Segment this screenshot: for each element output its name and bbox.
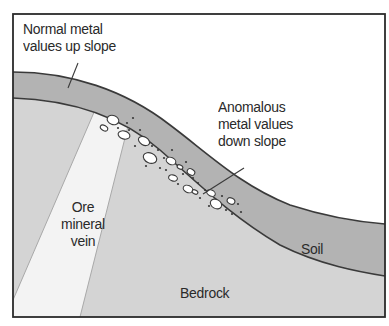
- label-normal-line2: values up slope: [23, 37, 116, 54]
- label-anomalous-line1: Anomalous: [218, 98, 293, 115]
- label-anomalous-metal: Anomalous metal values down slope: [218, 98, 293, 149]
- label-normal-metal: Normal metal values up slope: [23, 20, 116, 54]
- label-anomalous-line2: metal values: [218, 115, 293, 132]
- label-soil-text: Soil: [301, 240, 323, 257]
- label-ore-line1: Ore: [53, 198, 112, 215]
- label-ore-vein: Ore mineral vein: [53, 198, 112, 249]
- label-ore-line3: vein: [53, 232, 112, 249]
- label-anomalous-line3: down slope: [218, 132, 293, 149]
- label-soil: Soil: [301, 240, 323, 257]
- label-ore-line2: mineral: [53, 215, 112, 232]
- label-normal-line1: Normal metal: [23, 20, 116, 37]
- label-bedrock: Bedrock: [180, 284, 229, 301]
- label-bedrock-text: Bedrock: [180, 284, 229, 301]
